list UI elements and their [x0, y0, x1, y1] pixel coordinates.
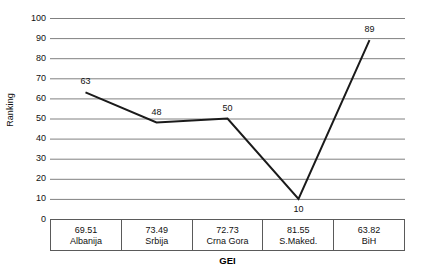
y-tick-label: 70: [20, 74, 46, 83]
category-cell: 73.49Srbija: [122, 220, 193, 250]
data-point-label: 63: [80, 77, 90, 86]
plot-svg: [50, 18, 405, 219]
y-tick-label: 50: [20, 114, 46, 123]
category-cell: 81.55S.Maked.: [263, 220, 334, 250]
category-name: Srbija: [145, 236, 168, 246]
category-axis-table: 69.51Albanija73.49Srbija72.73Crna Gora81…: [50, 219, 405, 251]
y-tick-label: 30: [20, 154, 46, 163]
y-tick-label: 10: [20, 194, 46, 203]
y-tick-label: 90: [20, 34, 46, 43]
plot-area: 6348501089: [50, 18, 405, 219]
y-tick-label: 20: [20, 174, 46, 183]
category-name: BiH: [362, 236, 377, 246]
data-point-label: 48: [151, 108, 161, 117]
y-axis-tick-labels: 1009080706050403020100: [14, 0, 46, 240]
category-gei-value: 81.55: [287, 225, 310, 235]
category-gei-value: 73.49: [145, 225, 168, 235]
category-name: S.Maked.: [279, 236, 317, 246]
category-name: Crna Gora: [206, 236, 248, 246]
category-cell: 69.51Albanija: [51, 220, 122, 250]
category-gei-value: 63.82: [358, 225, 381, 235]
y-tick-label: 100: [20, 14, 46, 23]
category-cell: 72.73Crna Gora: [193, 220, 264, 250]
category-name: Albanija: [70, 236, 102, 246]
category-gei-value: 72.73: [216, 225, 239, 235]
y-tick-label: 40: [20, 134, 46, 143]
y-tick-label: 0: [20, 215, 46, 224]
category-gei-value: 69.51: [75, 225, 98, 235]
data-point-label: 10: [293, 205, 303, 214]
x-axis-title: GEI: [50, 255, 405, 266]
data-point-label: 50: [222, 104, 232, 113]
data-point-label: 89: [364, 25, 374, 34]
line-chart: Ranking 1009080706050403020100 634850108…: [0, 0, 422, 275]
y-tick-label: 60: [20, 94, 46, 103]
y-tick-label: 80: [20, 54, 46, 63]
category-cell: 63.82BiH: [334, 220, 404, 250]
